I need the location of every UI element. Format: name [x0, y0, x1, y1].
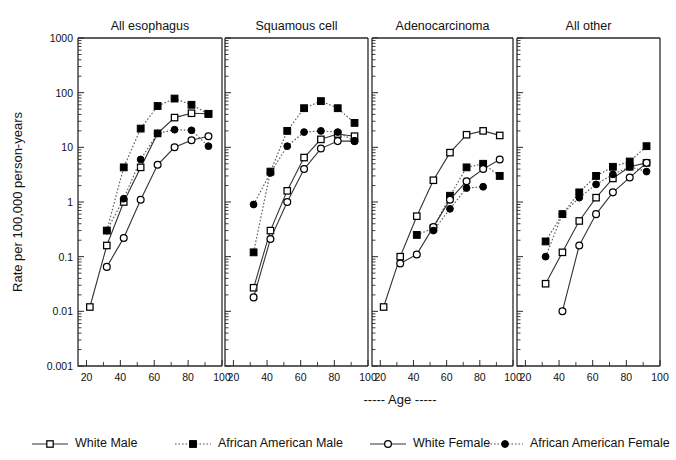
- marker-open-circle: [301, 166, 308, 173]
- marker-open-circle: [447, 196, 454, 203]
- marker-open-circle: [626, 174, 633, 181]
- chart-svg: Rate per 100,000 person-yearsAll esophag…: [0, 0, 676, 460]
- panel-axes-4: [517, 38, 660, 366]
- xtick-label-40: 40: [408, 371, 420, 383]
- xtick-label-40: 40: [261, 371, 273, 383]
- marker-filled-circle: [643, 168, 650, 175]
- marker-filled-square: [413, 232, 420, 239]
- ytick-label-2: 10: [61, 141, 73, 153]
- marker-open-circle: [576, 242, 583, 249]
- panel-title-4: All other: [566, 19, 612, 33]
- marker-filled-square: [496, 173, 503, 180]
- marker-filled-circle: [430, 227, 437, 234]
- marker-filled-circle: [447, 205, 454, 212]
- marker-open-square: [397, 253, 403, 259]
- panel-title-2: Squamous cell: [256, 19, 338, 33]
- marker-filled-circle: [576, 194, 583, 201]
- panel-1: All esophagus10001001010.10.010.00120406…: [47, 19, 231, 383]
- figure-root: Rate per 100,000 person-yearsAll esophag…: [0, 0, 676, 460]
- marker-open-square: [188, 110, 194, 116]
- marker-open-circle: [559, 308, 566, 315]
- marker-filled-circle: [480, 183, 487, 190]
- marker-open-square: [542, 281, 548, 287]
- xtick-label-80: 80: [329, 371, 341, 383]
- marker-open-circle: [188, 137, 195, 144]
- marker-open-circle: [205, 133, 212, 140]
- marker-filled-circle: [188, 127, 195, 134]
- panel-4: All other20406080100: [517, 19, 669, 383]
- ytick-label-3: 1: [67, 196, 73, 208]
- legend-label-3: African American Female: [530, 436, 670, 450]
- legend-marker-filled-square: [190, 441, 197, 448]
- marker-filled-circle: [626, 163, 633, 170]
- marker-open-circle: [397, 260, 404, 267]
- y-axis-label: Rate per 100,000 person-years: [10, 112, 25, 292]
- marker-open-square: [593, 194, 599, 200]
- marker-filled-circle: [250, 201, 257, 208]
- marker-open-circle: [267, 236, 274, 243]
- marker-filled-circle: [137, 156, 144, 163]
- xtick-label-80: 80: [182, 371, 194, 383]
- panel-axes-1: [78, 38, 222, 366]
- marker-filled-square: [643, 143, 650, 150]
- marker-filled-square: [154, 103, 161, 110]
- xtick-label-80: 80: [621, 371, 633, 383]
- marker-open-circle: [120, 235, 127, 242]
- marker-open-circle: [103, 263, 110, 270]
- marker-filled-circle: [103, 227, 110, 234]
- ytick-label-4: 0.1: [58, 251, 73, 263]
- xtick-label-20: 20: [520, 371, 532, 383]
- marker-filled-square: [250, 249, 257, 256]
- series-line-african-american-female: [107, 130, 209, 231]
- marker-open-circle: [284, 199, 291, 206]
- panel-3: Adenocarcinoma20406080100: [372, 19, 522, 383]
- marker-open-square: [284, 188, 290, 194]
- marker-filled-circle: [593, 181, 600, 188]
- marker-open-square: [414, 213, 420, 219]
- marker-filled-square: [171, 95, 178, 102]
- marker-filled-circle: [154, 130, 161, 137]
- marker-open-circle: [154, 161, 161, 168]
- marker-filled-square: [317, 98, 324, 105]
- panel-2: Squamous cell20406080100: [225, 19, 377, 383]
- xtick-label-60: 60: [295, 371, 307, 383]
- xtick-label-60: 60: [148, 371, 160, 383]
- ytick-label-0: 1000: [50, 32, 74, 44]
- xtick-label-80: 80: [474, 371, 486, 383]
- marker-open-square: [171, 114, 177, 120]
- marker-open-square: [104, 242, 110, 248]
- series-line-african-american-male: [417, 164, 500, 235]
- marker-filled-circle: [267, 170, 274, 177]
- marker-filled-square: [463, 164, 470, 171]
- xtick-label-20: 20: [81, 371, 93, 383]
- marker-filled-circle: [284, 143, 291, 150]
- series-line-white-female: [254, 141, 355, 297]
- legend-marker-open-circle: [385, 441, 392, 448]
- xtick-label-60: 60: [587, 371, 599, 383]
- marker-filled-square: [301, 105, 308, 112]
- marker-filled-square: [334, 105, 341, 112]
- marker-open-square: [463, 132, 469, 138]
- marker-filled-circle: [351, 138, 358, 145]
- marker-filled-circle: [301, 129, 308, 136]
- marker-filled-circle: [120, 195, 127, 202]
- series-line-white-female: [562, 163, 646, 311]
- marker-open-circle: [463, 178, 470, 185]
- ytick-label-5: 0.01: [53, 305, 74, 317]
- marker-open-circle: [250, 294, 257, 301]
- marker-filled-circle: [559, 211, 566, 218]
- marker-open-circle: [171, 144, 178, 151]
- marker-filled-circle: [317, 127, 324, 134]
- marker-filled-circle: [205, 143, 212, 150]
- marker-filled-square: [120, 164, 127, 171]
- series-line-african-american-female: [433, 187, 483, 231]
- marker-filled-circle: [463, 185, 470, 192]
- marker-open-square: [480, 128, 486, 134]
- marker-open-circle: [609, 189, 616, 196]
- marker-filled-square: [593, 173, 600, 180]
- marker-filled-circle: [171, 126, 178, 133]
- marker-open-circle: [593, 211, 600, 218]
- marker-filled-square: [205, 110, 212, 117]
- marker-open-circle: [317, 145, 324, 152]
- marker-open-square: [447, 149, 453, 155]
